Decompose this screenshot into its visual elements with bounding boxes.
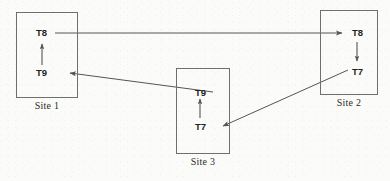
- transaction-label-site2-t7: T7: [352, 66, 363, 77]
- site-box-site-3: [176, 68, 230, 154]
- transaction-label-site1-t9: T9: [36, 67, 47, 78]
- transaction-label-site1-t8: T8: [36, 27, 47, 38]
- site-box-site-2: [320, 10, 378, 95]
- site-label-site-1: Site 1: [16, 100, 78, 111]
- site-label-site-3: Site 3: [176, 156, 230, 167]
- transaction-label-site3-t7: T7: [195, 121, 206, 132]
- transaction-label-site2-t8: T8: [352, 27, 363, 38]
- site-box-site-1: [16, 12, 78, 98]
- transaction-label-site3-t9: T9: [195, 87, 206, 98]
- diagram-canvas: T8 T9 Site 1 T8 T7 Site 2 T9 T7 Site 3: [0, 0, 390, 181]
- site-label-site-2: Site 2: [320, 97, 378, 108]
